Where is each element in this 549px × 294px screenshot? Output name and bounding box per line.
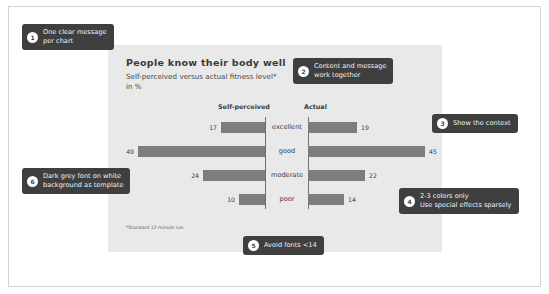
bar-value-self-perceived-poor: 10 (227, 194, 235, 205)
callout-3-number: 3 (437, 118, 448, 129)
bar-value-self-perceived-moderate: 24 (191, 170, 199, 181)
callout-5-number: 5 (248, 240, 259, 251)
callout-1-number: 1 (27, 32, 38, 43)
bar-rows: 17excellent1949good4524moderate2210poor1… (108, 117, 442, 213)
category-label-excellent: excellent (266, 121, 308, 134)
bar-self-perceived-good (138, 146, 265, 157)
chart-subtitle: Self-perceived versus actual fitness lev… (126, 72, 277, 92)
column-header-self-perceived: Self-perceived (218, 103, 270, 111)
table-row: 49good45 (108, 141, 442, 165)
callout-1-text: One clear message per chart (43, 28, 107, 46)
callout-1: 1 One clear message per chart (22, 24, 114, 50)
bar-actual-poor (308, 194, 344, 205)
callout-4-number: 4 (404, 196, 415, 207)
table-row: 10poor14 (108, 189, 442, 213)
bar-self-perceived-excellent (221, 122, 265, 133)
callout-4: 4 2-3 colors only Use special effects sp… (399, 188, 519, 214)
chart-title: People know their body well (126, 57, 286, 68)
category-label-poor: poor (266, 193, 308, 206)
callout-2-number: 2 (298, 66, 309, 77)
callout-2-text: Content and message work together (314, 62, 386, 80)
bar-value-actual-excellent: 19 (361, 122, 369, 133)
bar-self-perceived-moderate (203, 170, 265, 181)
callout-6-text: Dark grey font on white background as te… (43, 172, 123, 190)
category-label-moderate: moderate (266, 169, 308, 182)
callout-5: 5 Avoid fonts <14 (243, 236, 324, 255)
column-header-actual: Actual (304, 103, 327, 111)
bar-value-self-perceived-good: 49 (126, 146, 134, 157)
bar-actual-excellent (308, 122, 357, 133)
callout-5-text: Avoid fonts <14 (264, 241, 317, 250)
bar-actual-good (308, 146, 425, 157)
bar-self-perceived-poor (239, 194, 265, 205)
chart-footnote: *Standard 12-minute run (126, 225, 184, 230)
bar-value-self-perceived-excellent: 17 (209, 122, 217, 133)
callout-4-text: 2-3 colors only Use special effects spar… (420, 192, 512, 210)
bar-value-actual-moderate: 22 (369, 170, 377, 181)
bar-actual-moderate (308, 170, 365, 181)
callout-6: 6 Dark grey font on white background as … (22, 168, 130, 194)
callout-3-text: Show the context (453, 119, 511, 128)
page-root: People know their body well Self-perceiv… (0, 0, 549, 294)
callout-2: 2 Content and message work together (293, 58, 393, 84)
category-label-good: good (266, 145, 308, 158)
bar-value-actual-good: 45 (429, 146, 437, 157)
table-row: 24moderate22 (108, 165, 442, 189)
table-row: 17excellent19 (108, 117, 442, 141)
bar-value-actual-poor: 14 (348, 194, 356, 205)
callout-3: 3 Show the context (432, 114, 518, 133)
callout-6-number: 6 (27, 176, 38, 187)
